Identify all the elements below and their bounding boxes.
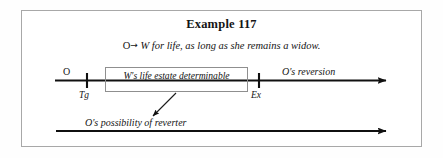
- timeline-tick-label-tg: Tg: [79, 90, 89, 100]
- timeline-label-grantor: O: [63, 66, 70, 77]
- callout-arrow: [153, 93, 176, 116]
- estate-box-label: W's life estate determinable: [105, 70, 248, 81]
- example-figure: Example 117 O→ W for life, as long as sh…: [0, 0, 443, 158]
- timeline-label-reversion: O's reversion: [282, 66, 335, 77]
- timeline-label-possibility-of-reverter: O's possibility of reverter: [85, 117, 186, 128]
- timeline-tick-label-ex: Ex: [251, 90, 261, 100]
